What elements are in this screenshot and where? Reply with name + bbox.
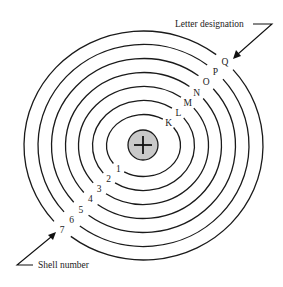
shell-number-caption: Shell number: [38, 260, 90, 270]
shell-ring-7-segment-a: [71, 70, 263, 260]
shell-number-6: 6: [69, 215, 74, 225]
shell-number-2: 2: [106, 174, 111, 184]
shell-number-5: 5: [78, 205, 83, 215]
nucleus: [128, 130, 158, 160]
shell-number-1: 1: [116, 164, 121, 174]
shell-letter-M: M: [184, 98, 193, 108]
shell-number-4: 4: [88, 194, 93, 204]
shell-letter-Q: Q: [222, 57, 229, 67]
letter-designation-arrowhead: [233, 50, 241, 59]
letter-designation-caption: Letter designation: [175, 19, 244, 29]
shell-letter-O: O: [203, 77, 210, 87]
shell-letter-K: K: [165, 118, 172, 128]
shell-letter-P: P: [213, 67, 218, 77]
shell-letter-N: N: [193, 88, 200, 98]
letter-labels: KLMNOPQ: [165, 57, 228, 128]
shell-number-callout: Shell number: [17, 232, 90, 270]
shell-number-3: 3: [97, 184, 102, 194]
electron-shell-diagram: KLMNOPQ 1234567 Letter designation Shell…: [0, 0, 283, 287]
shell-letter-L: L: [175, 108, 181, 118]
number-labels: 1234567: [60, 164, 121, 235]
shell-ring-4-segment-a: [98, 99, 222, 219]
shell-ring-4-segment-b: [66, 73, 190, 193]
shell-ring-7-segment-b: [24, 31, 216, 221]
shell-number-7: 7: [60, 225, 65, 235]
letter-designation-callout: Letter designation: [175, 19, 272, 59]
